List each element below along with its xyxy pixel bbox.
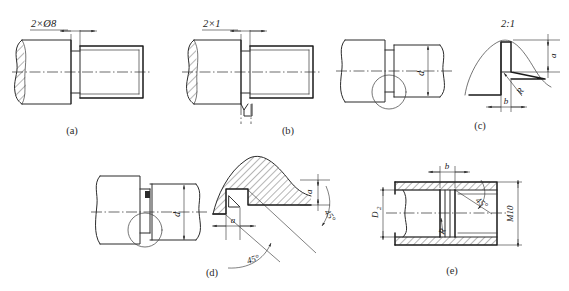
figure-e: b D 2 M10 45° R (e) [370,161,522,277]
figure-e-thread-callout: M10 [505,205,515,223]
figure-d: d a a 45° 45° (d) [91,156,338,279]
figure-e-caption: (e) [446,265,458,277]
figure-c-groove-radius: R [514,85,526,96]
figure-d-groove-depth-dim-right: a [304,189,314,194]
figure-b: 2×1 (b) [182,18,322,137]
figure-c-caption: (c) [474,120,486,132]
figure-d-diameter-dim: d [171,211,182,217]
technical-drawing-sheet: 2×Ø8 (a) 2×1 (b) [0,0,569,291]
figure-e-bore-diameter-subscript: 2 [375,206,383,210]
figure-e-chamfer-angle: 45° [474,195,490,211]
figure-b-groove-callout: 2×1 [203,18,221,29]
figure-a-caption: (a) [66,125,78,137]
figure-c-groove-width-dim: b [504,96,509,106]
figure-e-bore-diameter-dim: D [370,211,380,219]
figure-e-groove-width-dim: b [445,161,450,171]
figure-a: 2×Ø8 (a) [12,18,152,137]
figure-c-scale-note: 2:1 [501,18,515,29]
figure-d-angle-lower: 45° [246,252,261,266]
figure-e-groove-radius: R [436,227,448,237]
figure-a-groove-callout: 2×Ø8 [31,18,57,29]
figure-d-caption: (d) [206,267,219,279]
figure-c-groove-depth-dim: a [548,53,558,58]
figure-c-diameter-dim: d [415,70,426,76]
drawing-canvas: 2×Ø8 (a) 2×1 (b) [0,0,569,291]
figure-b-caption: (b) [282,125,295,137]
figure-c: d 2:1 a R b (c) [336,18,560,132]
